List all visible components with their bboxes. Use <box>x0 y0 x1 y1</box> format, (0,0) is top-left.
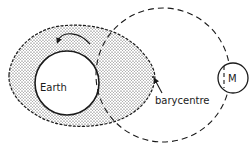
barycentre-point <box>152 76 154 78</box>
earth-moon-barycentre-diagram: Earth barycentre M <box>0 0 249 150</box>
barycentre-label: barycentre <box>155 95 209 106</box>
barycentre-pointer-arrow <box>155 80 162 93</box>
earth-label: Earth <box>40 82 67 93</box>
moon-label: M <box>228 73 237 84</box>
